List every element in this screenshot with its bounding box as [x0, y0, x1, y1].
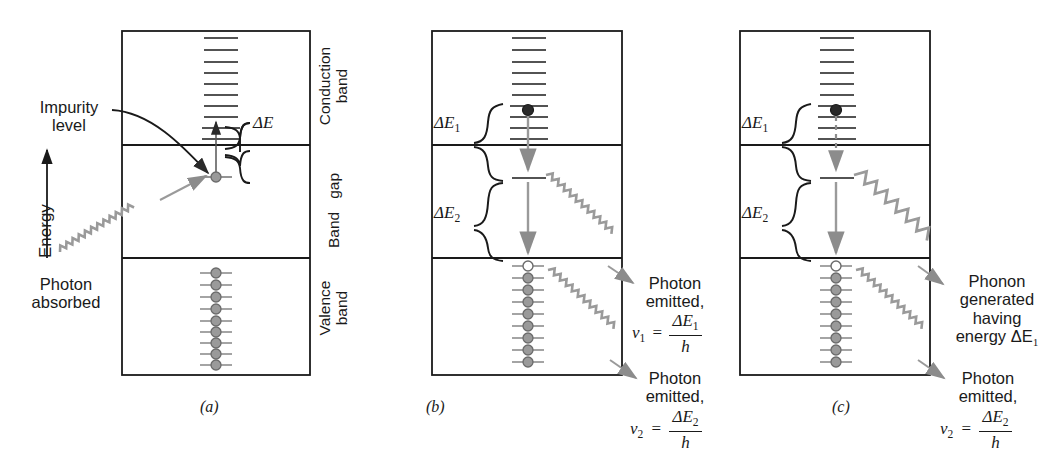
energy-axis-label: Energy: [36, 204, 55, 258]
panel-b-photon2-label: Photon emitted,: [627, 369, 723, 406]
panel-b-deltaE2-label: ΔE2: [434, 203, 460, 226]
panel-a-impurity-pointer: [112, 110, 208, 173]
panel-c-phonon-energy-line: energy ΔE1: [938, 327, 1056, 349]
band-gap-label: Band gap: [325, 173, 342, 248]
impurity-level-label: Impurity level: [20, 98, 118, 135]
panel-a-photon-absorbed-wave: [57, 176, 206, 252]
panel-c-deltaE2-label: ΔE2: [742, 203, 768, 226]
caption-a: (a): [200, 398, 219, 416]
panel-a-valence-levels: [200, 268, 232, 370]
panel-b-group: [432, 31, 636, 378]
caption-b: (b): [426, 398, 445, 416]
panel-b-deltaE2-brace: [474, 183, 503, 261]
conduction-band-label: Conduction band: [316, 30, 351, 142]
panel-b-deltaE1-label: ΔE1: [434, 113, 460, 136]
panel-c-deltaE2-brace: [782, 183, 811, 261]
panel-c-photon2-label: Photon emitted,: [938, 369, 1038, 406]
panel-b-excited-electron: [523, 105, 534, 116]
panel-c-deltaE1-brace: [782, 104, 811, 181]
panel-a-conduction-levels: [202, 38, 240, 139]
panel-b-valence-levels: [512, 261, 544, 367]
panel-c-photon2-frequency: ν2 = ΔE2 h: [940, 407, 1012, 452]
panel-b-photon2-frequency: ν2 = ΔE2 h: [630, 407, 702, 452]
panel-b-photon1-label: Photon emitted,: [627, 274, 723, 311]
panel-c-deltaE1-label: ΔE1: [742, 113, 768, 136]
photon-absorbed-label: Photon absorbed: [16, 275, 116, 312]
panel-c-conduction-levels: [818, 38, 856, 139]
panel-c-valence-levels: [820, 261, 852, 367]
panel-c-hole: [831, 261, 841, 271]
panel-a-group: [57, 31, 310, 375]
panel-a-deltaE-label: ΔE: [253, 113, 273, 132]
panel-c-group: [740, 31, 944, 378]
caption-c: (c): [832, 398, 850, 416]
band-diagram-svg: [0, 0, 1061, 471]
panel-b-hole: [523, 261, 533, 271]
panel-c-excited-electron: [831, 105, 842, 116]
panel-a-deltaE-brace: [225, 123, 250, 183]
panel-b-deltaE1-brace: [474, 104, 503, 181]
panel-b-photon1-frequency: ν1 = ΔE1 h: [632, 311, 702, 356]
panel-b-photon1-wave: [546, 171, 633, 283]
figure-canvas: Energy Impurity level Photon absorbed ΔE…: [0, 0, 1061, 471]
panel-c-phonon-label: Phonon generated having energy ΔE1: [938, 272, 1056, 349]
valence-band-label: Valence band: [316, 256, 351, 360]
